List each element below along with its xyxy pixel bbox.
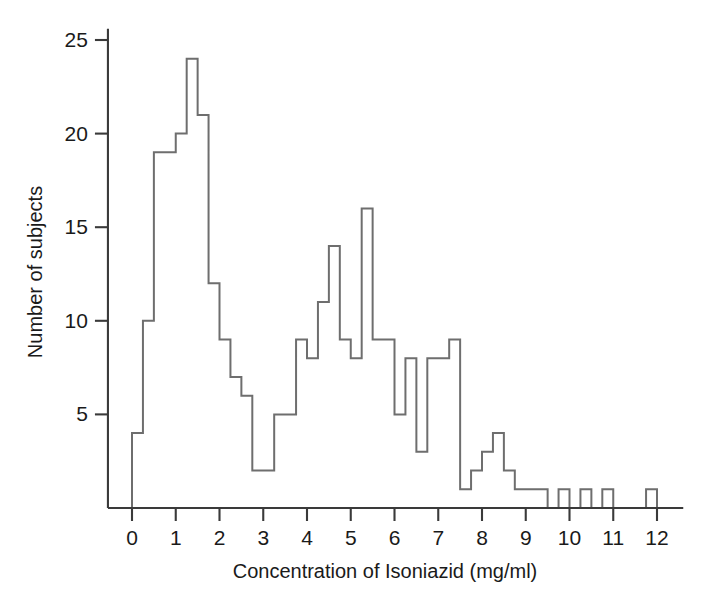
x-tick-label: 4 — [301, 526, 313, 549]
y-tick-label: 20 — [65, 122, 88, 145]
x-tick-label: 10 — [558, 526, 581, 549]
y-tick-label: 15 — [65, 215, 88, 238]
x-tick-label: 12 — [645, 526, 668, 549]
x-tick-label: 7 — [432, 526, 444, 549]
y-tick-label: 10 — [65, 309, 88, 332]
histogram-figure: 0123456789101112 510152025 Concentration… — [0, 0, 701, 597]
x-tick-label: 9 — [520, 526, 532, 549]
x-tick-label: 2 — [214, 526, 226, 549]
x-tick-label: 0 — [126, 526, 138, 549]
x-axis-title: Concentration of Isoniazid (mg/ml) — [233, 560, 538, 582]
x-tick-label: 5 — [345, 526, 357, 549]
x-tick-label: 3 — [257, 526, 269, 549]
x-tick-label: 6 — [389, 526, 401, 549]
x-tick-label: 11 — [602, 526, 624, 549]
y-tick-label: 5 — [76, 402, 88, 425]
y-tick-label: 25 — [65, 28, 88, 51]
histogram-plot: 0123456789101112 510152025 Concentration… — [0, 0, 701, 597]
x-tick-label: 1 — [170, 526, 182, 549]
y-axis-title: Number of subjects — [24, 186, 46, 358]
x-tick-label: 8 — [476, 526, 488, 549]
